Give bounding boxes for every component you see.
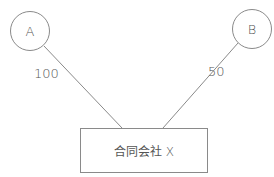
node-company-x-label: 合同会社 X <box>114 142 174 159</box>
node-b: B <box>232 9 272 49</box>
edge-a-label: 100 <box>34 66 59 81</box>
node-company-x: 合同会社 X <box>80 128 208 173</box>
node-a: A <box>10 11 50 51</box>
edge-b-label: 50 <box>208 64 225 79</box>
node-b-label: B <box>248 22 257 37</box>
edge-b-to-x <box>163 43 238 128</box>
node-a-label: A <box>26 24 35 39</box>
edge-a-to-x <box>44 46 122 128</box>
